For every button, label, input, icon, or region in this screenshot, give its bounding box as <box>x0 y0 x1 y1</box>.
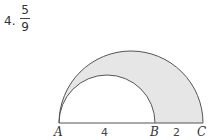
label-c: C <box>197 125 206 139</box>
shaded-region <box>59 51 203 123</box>
semicircle-diagram: A 4 B 2 C <box>0 0 213 140</box>
label-a: A <box>53 125 63 139</box>
label-ab-length: 4 <box>101 126 108 139</box>
label-bc-length: 2 <box>173 126 180 139</box>
label-b: B <box>149 125 159 139</box>
